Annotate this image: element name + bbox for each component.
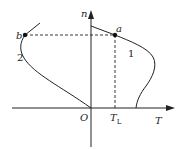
curve-2 [21,23,91,108]
n-T-diagram: n T O a b 1 2 TL [0,0,184,150]
tick-TL-subscript: L [117,118,122,126]
curve-1 [91,26,155,108]
curve-2-label: 2 [17,52,23,63]
point-b-label: b [16,30,22,41]
y-axis-arrow-icon [88,10,94,19]
point-b [23,33,27,37]
point-a-label: a [116,23,122,34]
curve-1-label: 1 [128,48,134,59]
origin-label: O [80,112,88,123]
x-axis-label: T [155,115,163,126]
x-axis-arrow-icon [166,105,175,111]
y-axis-label: n [81,8,87,19]
tick-TL-label: TL [110,112,122,126]
